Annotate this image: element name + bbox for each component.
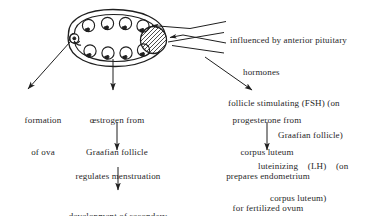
- endometrium-line-2: for fertilized ovum: [203, 203, 333, 214]
- endometrium-line-1: prepares endometrium: [203, 171, 333, 182]
- menstruation-line-1: regulates menstruation: [52, 171, 184, 182]
- label-secondary-characteristics: development of secondary sexual characte…: [42, 190, 194, 216]
- follicle: [119, 17, 131, 29]
- secondary-line-1: development of secondary: [42, 211, 194, 216]
- pituitary-line-2: hormones: [230, 67, 381, 78]
- pituitary-connector-lines: [168, 22, 226, 54]
- oestrogen-line-1: œstrogen from: [58, 115, 176, 126]
- label-prepares-endometrium: prepares endometrium for fertilized ovum: [203, 150, 333, 216]
- follicle: [84, 45, 96, 57]
- follicle: [102, 47, 114, 59]
- follicle: [101, 17, 113, 29]
- pituitary-line-1: influenced by anterior pituitary: [230, 35, 381, 46]
- diagram-page: influenced by anterior pituitary hormone…: [0, 0, 381, 216]
- progesterone-line-1: progesterone from: [204, 115, 330, 126]
- arrow-ovum-to-formation: [28, 42, 70, 89]
- follicle: [120, 47, 132, 59]
- follicles: [82, 17, 149, 59]
- arrow-pituitary-to-corpus-luteum: [170, 35, 183, 38]
- follicle: [137, 20, 149, 32]
- follicle: [82, 19, 94, 31]
